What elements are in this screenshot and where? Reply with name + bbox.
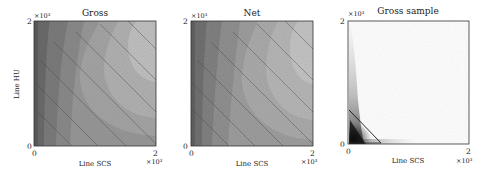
x-axis-label: Line SCS <box>236 160 269 168</box>
x-tick-0: 0 <box>189 149 194 158</box>
y-tick-0: 0 <box>183 142 188 151</box>
y-axis-label: Line HU <box>13 69 21 99</box>
x-tick-2: 2 <box>153 149 158 158</box>
x-multiplier: ×10³ <box>146 158 163 166</box>
y-multiplier: ×10³ <box>191 12 208 20</box>
x-axis-label: Line SCS <box>79 160 112 168</box>
y-tick-2: 2 <box>340 17 345 26</box>
x-tick-2: 2 <box>310 149 315 158</box>
panel-title: Net <box>244 8 261 18</box>
contour-fill <box>34 21 156 146</box>
panel-title: Gross sample <box>377 6 439 16</box>
panel-title: Gross <box>82 8 109 18</box>
panel-net: Net 2 0 ×10³ 0 2 ×10³ <box>183 8 318 168</box>
x-multiplier: ×10³ <box>301 158 318 166</box>
y-tick-2: 2 <box>183 17 188 26</box>
panel-gross-sample: Gross sample 2 0 ×10³ 0 2 ×10³ Line SCS <box>340 6 473 165</box>
x-tick-2: 2 <box>466 147 471 156</box>
scatter-density <box>348 21 469 144</box>
y-tick-0: 0 <box>340 140 345 149</box>
x-tick-0: 0 <box>32 149 37 158</box>
x-axis-label: Line SCS <box>392 157 425 165</box>
figure: Gross 2 0 ×10³ 0 2 ×1 <box>0 0 486 175</box>
x-multiplier: ×10³ <box>456 157 473 165</box>
x-tick-0: 0 <box>346 147 351 156</box>
contour-fill <box>191 21 313 146</box>
y-tick-2: 2 <box>27 17 32 26</box>
y-multiplier: ×10³ <box>34 12 51 20</box>
panel-gross: Gross 2 0 ×10³ 0 2 ×1 <box>13 8 163 168</box>
y-multiplier: ×10³ <box>348 10 365 18</box>
